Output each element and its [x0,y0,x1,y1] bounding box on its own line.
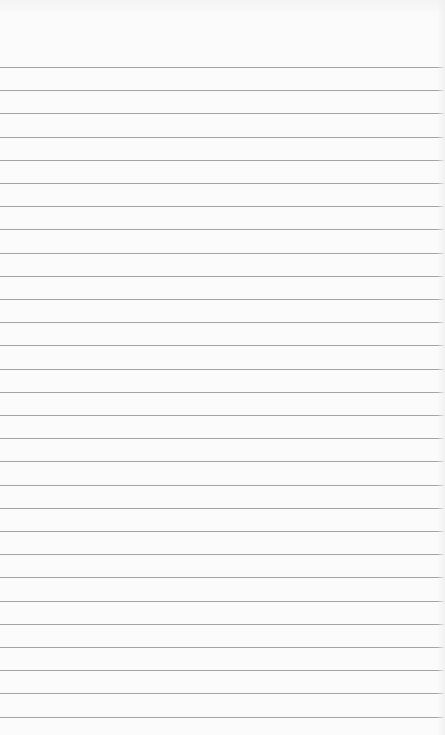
ruled-line [0,601,445,602]
ruled-line [0,670,445,671]
ruled-line [0,253,445,254]
ruled-line [0,531,445,532]
lined-paper-sheet [0,0,445,735]
ruled-line [0,322,445,323]
ruled-line [0,577,445,578]
ruled-line [0,160,445,161]
ruled-line [0,206,445,207]
ruled-line [0,647,445,648]
ruled-line [0,438,445,439]
ruled-line [0,299,445,300]
ruled-line [0,485,445,486]
ruled-line [0,624,445,625]
ruled-line [0,461,445,462]
ruled-line [0,554,445,555]
ruled-line [0,415,445,416]
ruled-line [0,113,445,114]
ruled-line [0,508,445,509]
ruled-line [0,693,445,694]
ruled-line [0,90,445,91]
ruled-line [0,392,445,393]
ruled-line [0,717,445,718]
ruled-line [0,276,445,277]
ruled-line [0,229,445,230]
ruled-line [0,369,445,370]
ruled-line [0,183,445,184]
ruled-line [0,137,445,138]
ruled-line [0,345,445,346]
ruled-line [0,67,445,68]
